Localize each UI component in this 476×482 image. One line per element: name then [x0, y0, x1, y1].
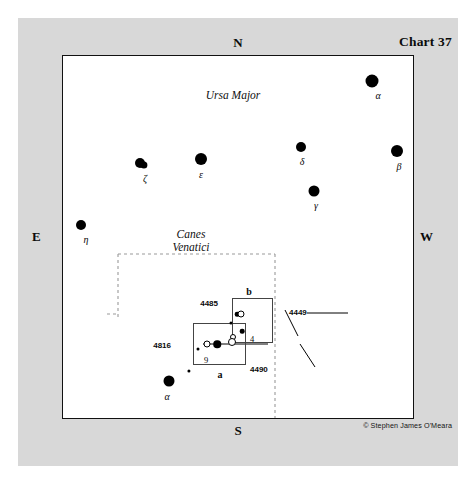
star-marker	[309, 186, 320, 197]
star-marker	[76, 220, 86, 230]
galaxy-marker	[204, 341, 211, 348]
copyright-notice: © Stephen James O'Meara	[363, 421, 452, 430]
ngc-callout-label: 4490	[250, 365, 268, 374]
star-marker	[391, 145, 403, 157]
star-bayer-label: η	[84, 234, 89, 245]
inset-region-label: a	[218, 369, 223, 380]
faint-star-marker	[230, 322, 233, 325]
star-bayer-label: γ	[314, 200, 318, 211]
star-bayer-label: ζ	[143, 173, 147, 184]
galaxy-marker	[238, 311, 245, 318]
star-marker	[366, 75, 379, 88]
faint-star-marker	[240, 329, 245, 334]
compass-west-label: W	[420, 230, 433, 243]
faint-star-marker	[213, 340, 221, 348]
constellation-name-label: Canes Venatici	[172, 228, 209, 254]
star-bayer-label: δ	[300, 156, 305, 167]
star-bayer-label: β	[397, 161, 402, 172]
chart-frame: Ursa MajorCanes Venaticiabαβδγεζηα944449…	[62, 55, 414, 419]
sky-plot-area: Ursa MajorCanes Venaticiabαβδγεζηα944449…	[63, 56, 413, 418]
star-marker	[296, 142, 306, 152]
flamsteed-number-label: 4	[250, 334, 254, 344]
ngc-callout-label: 4816	[153, 341, 171, 350]
constellation-name-label: Ursa Major	[206, 89, 261, 102]
star-bayer-label: α	[375, 90, 380, 101]
star-marker	[195, 153, 207, 165]
star-marker	[164, 376, 175, 387]
inset-region-label: b	[246, 286, 252, 297]
star-chart-page: N S E W Chart 37 © Stephen James O'Meara	[0, 0, 476, 482]
flamsteed-number-label: 9	[204, 355, 208, 365]
star-bayer-label: ε	[199, 169, 203, 180]
galaxy-marker	[228, 338, 236, 346]
faint-star-marker	[197, 348, 200, 351]
ngc-callout-label: 4449	[289, 308, 307, 317]
chart-title: Chart 37	[399, 34, 452, 50]
compass-east-label: E	[32, 230, 41, 243]
star-bayer-label: α	[164, 391, 169, 402]
ngc-callout-label: 4485	[200, 299, 218, 308]
